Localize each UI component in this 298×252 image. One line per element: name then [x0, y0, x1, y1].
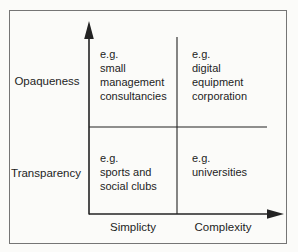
quadrant-top-left-text: e.g. small management consultancies — [100, 47, 176, 103]
quadrant-bottom-left-text: e.g. sports and social clubs — [100, 151, 176, 193]
x-axis-label-simplicty: Simplicty — [89, 220, 177, 234]
y-axis-label-transparency: Transparency — [6, 167, 86, 180]
quadrant-bottom-right-text: e.g. universities — [192, 151, 268, 179]
axes-and-gridlines — [0, 0, 298, 252]
up-arrow-icon — [84, 21, 94, 39]
quadrant-top-right-text: e.g. digital equipment corporation — [192, 47, 268, 103]
x-axis-label-complexity: Complexity — [177, 220, 269, 234]
right-arrow-icon — [267, 209, 284, 218]
matrix-diagram: Opaqueness Transparency e.g. small manag… — [0, 0, 298, 252]
y-axis-label-opaqueness: Opaqueness — [8, 75, 86, 88]
